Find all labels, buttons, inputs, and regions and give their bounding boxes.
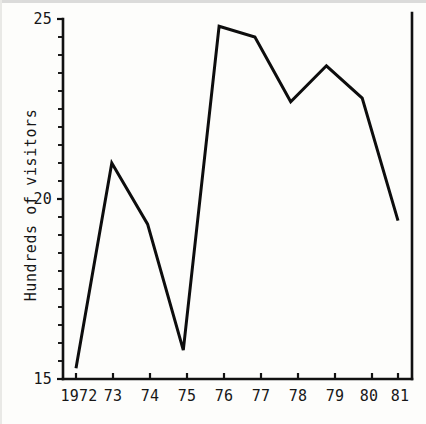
x-tick-label-1972: 1972 [61, 387, 98, 405]
chart-page: 25 20 15 Hundreds of visitors 1972 73 74… [0, 0, 426, 424]
x-tick-label-76: 76 [215, 387, 233, 405]
x-tick-label-81: 81 [391, 387, 409, 405]
y-axis-title: Hundreds of visitors [22, 100, 40, 310]
x-tick-label-77: 77 [252, 387, 270, 405]
x-tick-label-80: 80 [360, 387, 378, 405]
x-tick-label-73: 73 [104, 387, 122, 405]
visitors-data-line [76, 26, 398, 368]
x-tick-label-75: 75 [178, 387, 196, 405]
x-tick-label-79: 79 [326, 387, 344, 405]
y-tick-label-25: 25 [26, 10, 52, 28]
y-tick-label-15: 15 [26, 370, 52, 388]
line-chart-plot [0, 0, 426, 424]
x-tick-label-74: 74 [141, 387, 159, 405]
x-tick-label-78: 78 [289, 387, 307, 405]
